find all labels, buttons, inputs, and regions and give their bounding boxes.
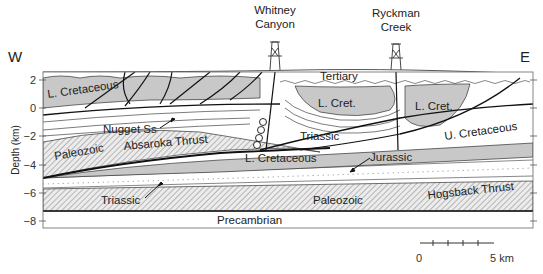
label-l-cretaceous-lower: L. Cretaceous <box>245 152 317 164</box>
scale-end: 5 km <box>490 252 514 264</box>
well-label-ryckman: Ryckman <box>372 7 420 19</box>
label-tertiary: Tertiary <box>320 70 358 82</box>
y-tick: −4 <box>23 159 36 171</box>
label-paleozoic-lower: Paleozoic <box>313 194 363 206</box>
y-axis-label: Depth (km) <box>10 125 21 174</box>
well-label-canyon: Canyon <box>255 18 295 30</box>
y-tick: −8 <box>23 215 36 227</box>
well-label-whitney: Whitney <box>254 4 296 16</box>
y-tick: −2 <box>23 130 36 142</box>
y-tick: 0 <box>30 102 36 114</box>
geologic-cross-section: W E Whitney Canyon Ryckman Creek <box>0 0 543 274</box>
label-l-cret-center: L. Cret. <box>318 97 356 109</box>
y-tick: −6 <box>23 187 36 199</box>
precambrian-unit <box>43 210 533 230</box>
label-jurassic: Jurassic <box>370 151 412 163</box>
label-precambrian: Precambrian <box>217 214 282 226</box>
west-label: W <box>8 48 23 65</box>
y-axis: 2 0 −2 −4 −6 −8 Depth (km) <box>10 74 46 227</box>
scale-bar: 0 5 km <box>416 240 514 264</box>
derrick-icon <box>268 42 282 70</box>
well-label-creek: Creek <box>381 21 412 33</box>
y-tick: 2 <box>30 74 36 86</box>
label-triassic-upper: Triassic <box>300 130 339 142</box>
derrick-icon <box>389 44 403 70</box>
scale-start: 0 <box>416 252 422 264</box>
label-nugget-ss: Nugget Ss <box>103 123 157 135</box>
east-label: E <box>520 48 530 65</box>
label-triassic-lower: Triassic <box>101 194 140 206</box>
label-l-cret-east: L. Cret. <box>415 100 453 112</box>
